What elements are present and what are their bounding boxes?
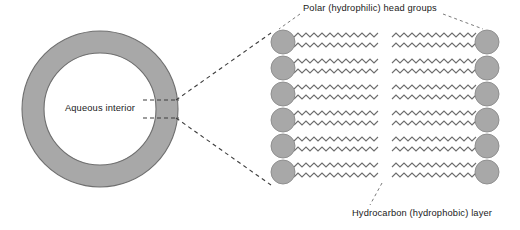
- head-group: [271, 30, 295, 54]
- hydrocarbon-layer-label: Hydrocarbon (hydrophobic) layer: [352, 208, 492, 218]
- diagram-canvas: [0, 0, 520, 230]
- head-group: [475, 108, 499, 132]
- head-group: [271, 160, 295, 184]
- head-group: [475, 30, 499, 54]
- head-group: [475, 56, 499, 80]
- head-group: [475, 134, 499, 158]
- head-group: [271, 134, 295, 158]
- polar-head-groups-label: Polar (hydrophilic) head groups: [303, 3, 437, 13]
- head-group: [271, 56, 295, 80]
- head-group: [271, 108, 295, 132]
- head-group: [475, 82, 499, 106]
- lipid-bilayer-diagram: Aqueous interior Polar (hydrophilic) hea…: [0, 0, 520, 230]
- head-group: [271, 82, 295, 106]
- head-group: [475, 160, 499, 184]
- aqueous-interior-label: Aqueous interior: [40, 103, 160, 113]
